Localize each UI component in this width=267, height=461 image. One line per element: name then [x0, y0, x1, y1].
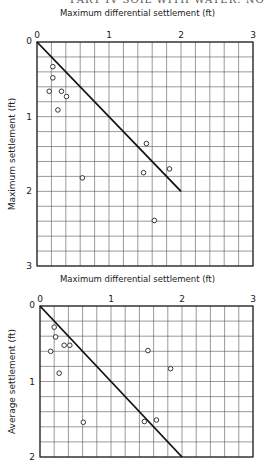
data-point — [62, 343, 67, 348]
x-tick-label: 2 — [178, 30, 184, 40]
data-point — [141, 170, 146, 175]
data-point — [47, 89, 52, 94]
data-point — [53, 335, 58, 340]
data-point — [48, 349, 53, 354]
data-point — [57, 371, 62, 376]
data-point — [81, 420, 86, 425]
data-point — [51, 64, 56, 69]
data-point — [146, 348, 151, 353]
y-tick-label: 1 — [29, 377, 35, 387]
y-tick-label: 1 — [26, 112, 32, 122]
data-point — [144, 141, 149, 146]
x-tick-label: 0 — [37, 294, 43, 304]
data-point — [51, 76, 56, 81]
data-point — [168, 366, 173, 371]
data-point — [154, 418, 159, 423]
data-point — [64, 94, 69, 99]
data-point — [167, 167, 172, 172]
y-tick-label: 0 — [26, 36, 32, 46]
y-tick-label: 2 — [26, 186, 32, 196]
y-tick-label: 0 — [29, 300, 35, 310]
x-tick-label: 2 — [179, 294, 185, 304]
data-point — [52, 325, 57, 330]
x-tick-label: 3 — [250, 30, 256, 40]
y-tick-label: 3 — [26, 261, 32, 271]
y-axis-label: Average settlement (ft) — [7, 329, 17, 434]
data-point — [80, 176, 85, 181]
data-point — [68, 343, 73, 348]
y-tick-label: 2 — [29, 452, 35, 461]
x-tick-label: 0 — [34, 30, 40, 40]
charts-canvas: 01230123Maximum settlement (ft)0123012Av… — [0, 0, 267, 461]
y-axis-label: Maximum settlement (ft) — [7, 98, 17, 211]
x-tick-label: 1 — [106, 30, 112, 40]
x-tick-label: 3 — [250, 294, 256, 304]
data-point — [152, 218, 157, 223]
data-point — [142, 419, 147, 424]
x-tick-label: 1 — [108, 294, 114, 304]
data-point — [59, 89, 64, 94]
data-point — [56, 108, 61, 113]
